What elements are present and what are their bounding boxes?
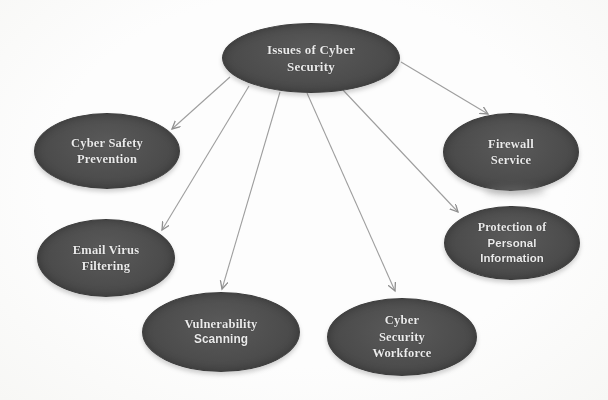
node-label-line: Service [487, 152, 535, 169]
node-label-line: Firewall [484, 136, 538, 153]
node-vulnerability-scanning: VulnerabilityScanning [142, 292, 300, 372]
edge-arrow-cyber-security-workforce [307, 93, 395, 291]
node-cyber-safety-prevention: Cyber SafetyPrevention [34, 113, 180, 189]
node-firewall-service: FirewallService [443, 113, 579, 191]
node-label-line: Cyber Safety [67, 135, 147, 152]
jpeg-artifact-smudge [484, 186, 546, 197]
node-label-line: Prevention [73, 151, 141, 168]
node-cyber-security-workforce: CyberSecurityWorkforce [327, 298, 477, 376]
node-label-line: Vulnerability [181, 316, 262, 333]
node-label-line: Filtering [78, 258, 134, 275]
node-protection-of-personal-information: Protection ofPersonalInformation [444, 206, 580, 280]
node-label-line: Issues of Cyber [263, 41, 359, 58]
diagram-canvas: Issues of CyberSecurityCyber SafetyPreve… [0, 0, 608, 400]
node-issues-of-cyber-security: Issues of CyberSecurity [222, 23, 400, 93]
edge-group [162, 62, 488, 291]
node-label-line: Security [375, 329, 429, 346]
edge-arrow-cyber-safety-prevention [172, 77, 230, 129]
node-email-virus-filtering: Email VirusFiltering [37, 219, 175, 297]
node-label-line: Information [476, 251, 548, 266]
node-label-line: Email Virus [69, 242, 143, 259]
edge-arrow-protection-of-personal-information [343, 90, 458, 212]
edge-arrow-vulnerability-scanning [222, 92, 280, 289]
node-label-line: Scanning [190, 332, 252, 348]
edge-arrow-firewall-service [401, 62, 488, 114]
node-label-line: Personal [484, 236, 541, 251]
node-label-line: Cyber [381, 312, 423, 329]
node-label-line: Protection of [474, 220, 551, 236]
node-label-line: Workforce [368, 345, 435, 362]
node-label-line: Security [283, 58, 339, 75]
